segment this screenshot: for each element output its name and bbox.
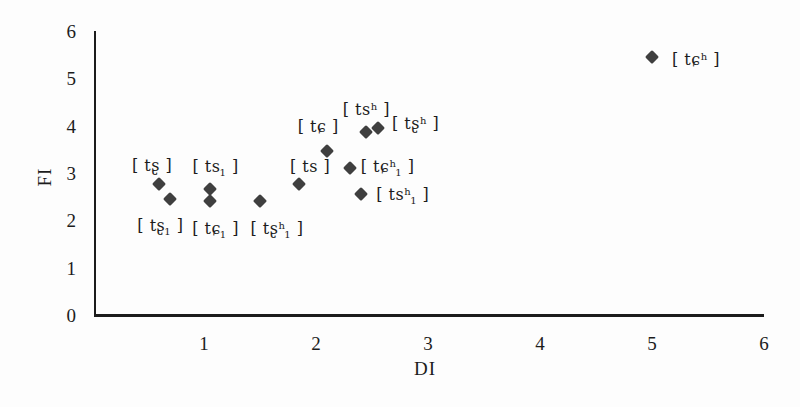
y-tick-label-0: 0 (46, 305, 76, 327)
point-ts-asp-sub1 (354, 187, 368, 201)
label-segment: [ ts ] (290, 157, 330, 176)
label-segment: 1 (410, 194, 417, 205)
y-tick-label-1: 1 (46, 258, 76, 280)
point-label-ts-sub1: [ ts1 ] (193, 157, 239, 178)
y-tick-label-5: 5 (46, 68, 76, 90)
label-segment: [ tɕ ] (298, 117, 339, 136)
label-segment: ] (291, 219, 303, 238)
point-label-tc-curl-asp: [ tɕh ] (672, 49, 720, 68)
point-label-tc-curl: [ tɕ ] (298, 117, 339, 136)
point-label-tc-curl-asp-sub1: [ tɕh1 ] (361, 156, 415, 177)
label-segment: ] (417, 184, 429, 203)
x-tick-label-1: 1 (189, 333, 219, 355)
label-segment: [ tʂ (137, 215, 165, 234)
label-segment: ] (427, 113, 439, 132)
label-segment: ] (708, 49, 720, 68)
label-segment: 1 (164, 225, 171, 236)
label-segment: 1 (284, 229, 291, 240)
label-segment: ] (171, 215, 183, 234)
y-tick-label-4: 4 (46, 116, 76, 138)
label-segment: [ tɕ (672, 49, 701, 68)
point-label-ts-asp-sub1: [ tsh1 ] (376, 184, 429, 205)
point-label-ts-retroflex-sub1: [ tʂ1 ] (137, 215, 183, 236)
x-tick-label-3: 3 (413, 333, 443, 355)
label-segment: h (420, 114, 427, 125)
x-axis-line (94, 314, 764, 317)
label-segment: ] (226, 157, 238, 176)
x-tick-label-6: 6 (749, 333, 779, 355)
point-label-ts-asp: [ tsh ] (343, 100, 390, 119)
label-segment: [ ts (343, 100, 371, 119)
label-segment: ] (378, 100, 390, 119)
point-tc-curl-asp (645, 50, 659, 64)
y-axis-line (94, 31, 96, 317)
point-ts-retroflex-sub1 (163, 192, 177, 206)
x-axis-title: DI (414, 358, 436, 380)
point-ts-retroflex (152, 177, 166, 191)
label-segment: [ tɕ (192, 219, 221, 238)
point-ts-retroflex-asp-sub1 (253, 194, 267, 208)
scatter-chart-figure: FI DI 0123456123456[ tʂ ][ tʂ1 ][ ts1 ][… (0, 0, 800, 407)
label-segment: [ ts (376, 184, 404, 203)
y-tick-label-6: 6 (46, 21, 76, 43)
point-ts (292, 177, 306, 191)
x-tick-label-4: 4 (525, 333, 555, 355)
label-segment: [ tʂ (392, 113, 420, 132)
label-segment: [ tʂ (250, 219, 278, 238)
y-tick-label-3: 3 (46, 163, 76, 185)
label-segment: 1 (395, 166, 402, 177)
point-ts-retroflex-asp (371, 121, 385, 135)
label-segment: 1 (219, 167, 226, 178)
label-segment: [ tɕ (361, 156, 390, 175)
point-label-ts: [ ts ] (290, 157, 330, 176)
label-segment: [ ts (193, 157, 221, 176)
label-segment: [ tʂ ] (132, 156, 172, 175)
label-segment: ] (402, 156, 414, 175)
point-label-ts-retroflex-asp: [ tʂh ] (392, 113, 439, 132)
point-tc-curl-asp-sub1 (343, 161, 357, 175)
point-label-ts-retroflex-asp-sub1: [ tʂh1 ] (250, 219, 303, 240)
point-label-tc-curl-sub1: [ tɕ1 ] (192, 219, 239, 240)
x-tick-label-2: 2 (301, 333, 331, 355)
label-segment: h (371, 101, 378, 112)
label-segment: 1 (220, 229, 227, 240)
x-tick-label-5: 5 (637, 333, 667, 355)
point-label-ts-retroflex: [ tʂ ] (132, 156, 172, 175)
point-tc-curl-sub1 (203, 194, 217, 208)
label-segment: ] (227, 219, 239, 238)
label-segment: h (701, 50, 708, 61)
y-tick-label-2: 2 (46, 210, 76, 232)
